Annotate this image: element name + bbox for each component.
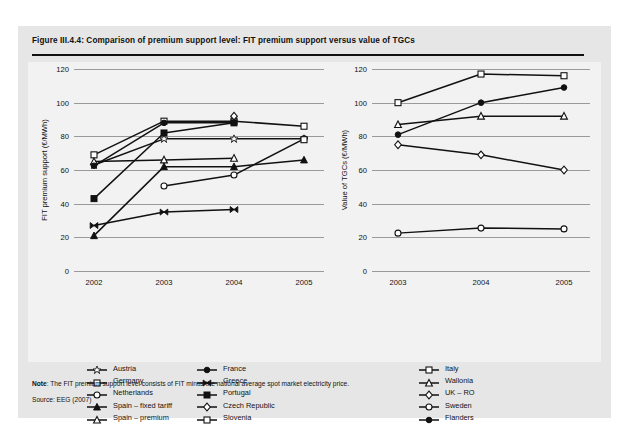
x-tick-label: 2005: [296, 278, 313, 287]
note-text: : The FIT premium support level consists…: [47, 380, 349, 387]
square-open-icon: [196, 412, 218, 424]
series-austria: [90, 135, 308, 169]
x-tick-label: 2005: [556, 278, 573, 287]
chart-value-of-tgcs: Value of TGCs (€/MWh) 020406080100120 20…: [328, 62, 601, 322]
series-sweden: [395, 225, 567, 236]
series-slovenia: [301, 137, 307, 143]
legend-item-label: Italy: [445, 364, 459, 373]
figure-notes: Note: The FIT premium support level cons…: [32, 378, 592, 406]
legend-item[interactable]: Flanders: [418, 412, 538, 424]
series-flanders: [395, 85, 567, 138]
x-tick-label: 2004: [473, 278, 490, 287]
page-title: Figure III.4.4: Comparison of premium su…: [32, 36, 584, 45]
plot-area: FIT premium support (€/MWh) 020406080100…: [28, 62, 601, 362]
x-tick-label: 2003: [156, 278, 173, 287]
title-divider: [32, 54, 584, 56]
legend-item[interactable]: Italy: [418, 362, 538, 374]
legend-item-label: France: [223, 364, 246, 373]
series-layer-left: [28, 62, 328, 322]
note-line: Note: The FIT premium support level cons…: [32, 378, 592, 390]
square-open-icon: [418, 362, 440, 374]
series-spain-premium: [91, 155, 238, 165]
series-uk-ro: [395, 141, 568, 174]
x-tick-label: 2002: [86, 278, 103, 287]
chart-fit-premium-support: FIT premium support (€/MWh) 020406080100…: [28, 62, 328, 322]
legend-item-label: Flanders: [445, 413, 474, 422]
legend-item-label: Slovenia: [223, 413, 251, 422]
figure-panel: Figure III.4.4: Comparison of premium su…: [18, 26, 611, 418]
legend-item[interactable]: Slovenia: [196, 412, 306, 424]
x-tick-label: 2003: [390, 278, 407, 287]
triangle-open-icon: [86, 412, 108, 424]
legend-item-label: Spain – premium: [113, 413, 169, 422]
circle-fill-icon: [418, 412, 440, 424]
series-spain-fixed-tariff: [91, 156, 308, 238]
circle-fill-icon: [196, 362, 218, 374]
figure-title-bar: Figure III.4.4: Comparison of premium su…: [32, 36, 584, 45]
source-line: Source: EEG (2007): [32, 394, 592, 406]
legend-item[interactable]: Austria: [86, 362, 196, 374]
series-germany: [91, 118, 307, 158]
star-open-icon: [86, 362, 108, 374]
legend-item-label: Austria: [113, 364, 136, 373]
legend-item[interactable]: France: [196, 362, 306, 374]
x-tick-label: 2004: [226, 278, 243, 287]
legend-item[interactable]: Spain – premium: [86, 412, 196, 424]
note-label: Note: [32, 380, 47, 387]
